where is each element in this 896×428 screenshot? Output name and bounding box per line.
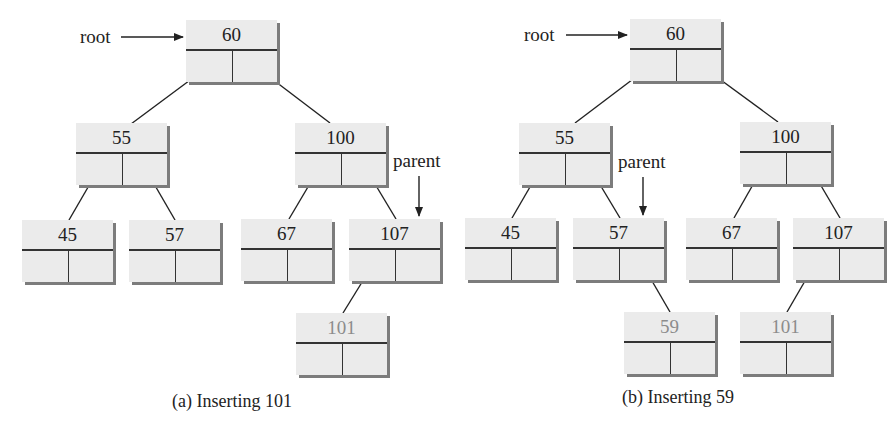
tree-node-100-b: 100 bbox=[740, 122, 831, 184]
node-link-divider bbox=[839, 247, 841, 280]
node-link-divider bbox=[175, 249, 177, 282]
tree-node-55-a: 55 bbox=[76, 123, 167, 185]
node-value: 67 bbox=[686, 218, 777, 247]
node-value: 60 bbox=[186, 20, 277, 49]
node-link-divider bbox=[786, 151, 788, 184]
caption-b: (b) Inserting 59 bbox=[622, 387, 734, 408]
tree-node-60-b: 60 bbox=[630, 19, 721, 81]
node-value: 55 bbox=[519, 123, 610, 152]
node-value: 67 bbox=[241, 219, 332, 248]
node-value: 45 bbox=[465, 218, 556, 247]
node-link-divider bbox=[287, 248, 289, 281]
tree-node-101-b: 101 bbox=[740, 312, 831, 374]
node-value: 59 bbox=[624, 312, 715, 341]
node-value: 107 bbox=[349, 219, 440, 248]
node-value: 107 bbox=[793, 218, 884, 247]
node-link-divider bbox=[342, 342, 344, 375]
node-value: 101 bbox=[740, 312, 831, 341]
tree-node-45-a: 45 bbox=[22, 220, 113, 282]
node-value: 57 bbox=[129, 220, 220, 249]
tree-node-55-b: 55 bbox=[519, 123, 610, 185]
node-link-divider bbox=[68, 249, 70, 282]
tree-node-67-a: 67 bbox=[241, 219, 332, 281]
caption-a: (a) Inserting 101 bbox=[172, 391, 292, 412]
node-value: 100 bbox=[295, 123, 386, 152]
node-link-divider bbox=[511, 247, 513, 280]
tree-node-107-b: 107 bbox=[793, 218, 884, 280]
tree-node-59-inserted-b: 59 bbox=[624, 312, 715, 374]
tree-node-60-a: 60 bbox=[186, 20, 277, 82]
node-link-divider bbox=[395, 248, 397, 281]
node-link-divider bbox=[676, 48, 678, 81]
node-link-divider bbox=[565, 152, 567, 185]
parent-label-a: parent bbox=[393, 150, 440, 172]
node-value: 45 bbox=[22, 220, 113, 249]
tree-node-100-a: 100 bbox=[295, 123, 386, 185]
node-value: 100 bbox=[740, 122, 831, 151]
tree-node-101-inserted-a: 101 bbox=[296, 313, 387, 375]
node-value: 57 bbox=[573, 218, 664, 247]
node-link-divider bbox=[341, 152, 343, 185]
node-link-divider bbox=[619, 247, 621, 280]
node-value: 60 bbox=[630, 19, 721, 48]
parent-label-b: parent bbox=[618, 151, 665, 173]
tree-node-67-b: 67 bbox=[686, 218, 777, 280]
node-link-divider bbox=[732, 247, 734, 280]
tree-node-45-b: 45 bbox=[465, 218, 556, 280]
node-link-divider bbox=[670, 341, 672, 374]
root-label-a: root bbox=[80, 26, 111, 48]
node-value: 101 bbox=[296, 313, 387, 342]
tree-node-57-b: 57 bbox=[573, 218, 664, 280]
root-label-b: root bbox=[524, 24, 555, 46]
node-link-divider bbox=[122, 152, 124, 185]
node-link-divider bbox=[786, 341, 788, 374]
node-value: 55 bbox=[76, 123, 167, 152]
tree-node-107-a: 107 bbox=[349, 219, 440, 281]
tree-node-57-a: 57 bbox=[129, 220, 220, 282]
node-link-divider bbox=[232, 49, 234, 82]
